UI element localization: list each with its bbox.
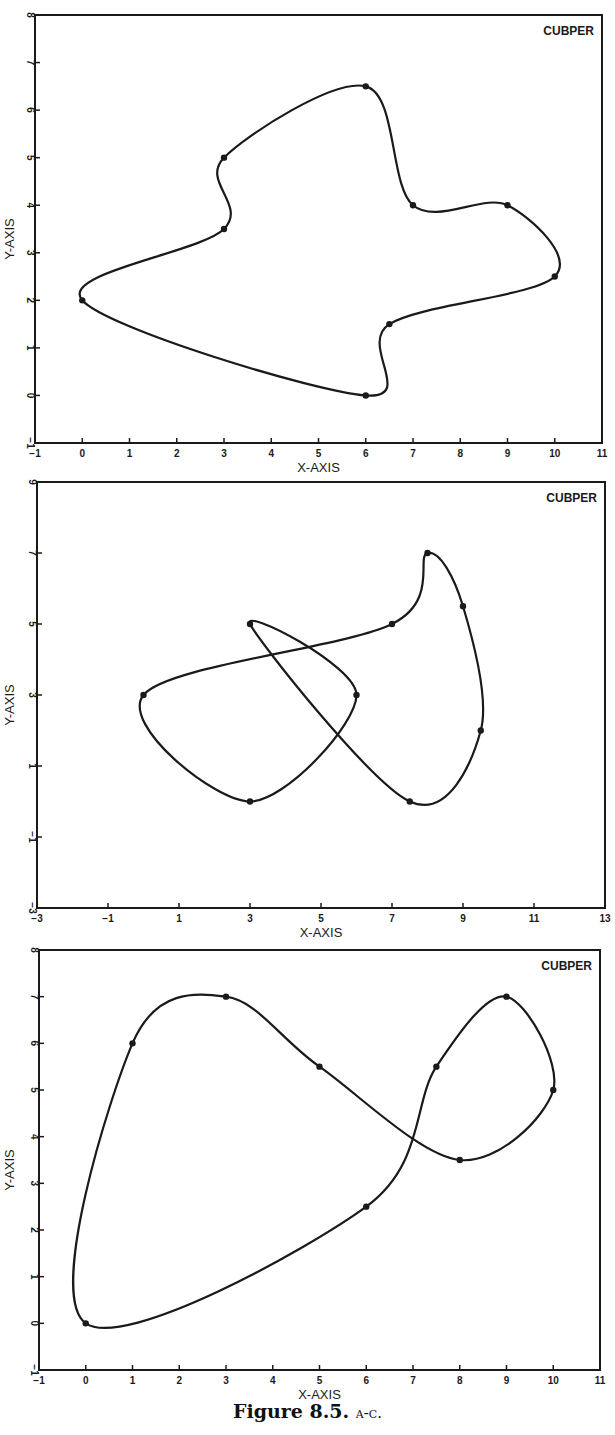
- y-tick-label: 5: [27, 621, 38, 627]
- chart-c: −101234567891011−1012345678X-AXISY-AXISC…: [2, 947, 606, 1402]
- y-axis-label: Y-AXIS: [2, 1149, 17, 1191]
- plot-frame: [37, 482, 605, 908]
- control-point: [478, 727, 484, 733]
- y-tick-label: −3: [27, 902, 38, 914]
- y-tick-label: 6: [29, 1041, 40, 1047]
- control-point: [433, 1063, 439, 1069]
- control-point: [221, 154, 227, 160]
- x-tick-label: 1: [127, 448, 133, 459]
- x-tick-label: 7: [410, 1375, 416, 1386]
- x-tick-label: 9: [505, 448, 511, 459]
- x-tick-label: 3: [221, 448, 227, 459]
- y-tick-label: 7: [25, 60, 36, 66]
- y-tick-label: 8: [29, 947, 40, 953]
- x-tick-label: 6: [363, 1375, 369, 1386]
- y-tick-label: 4: [25, 202, 36, 208]
- y-tick-label: 4: [29, 1134, 40, 1140]
- control-point: [247, 621, 253, 627]
- y-tick-label: 1: [25, 345, 36, 351]
- y-tick-label: 3: [27, 692, 38, 698]
- y-tick-label: 2: [25, 298, 36, 304]
- control-point: [363, 1203, 369, 1209]
- y-tick-label: 9: [27, 479, 38, 485]
- x-tick-label: 10: [549, 448, 561, 459]
- x-tick-label: −1: [102, 913, 114, 924]
- x-tick-label: 7: [389, 913, 395, 924]
- y-axis-label: Y-AXIS: [2, 218, 17, 260]
- x-tick-label: 5: [318, 913, 324, 924]
- control-point: [552, 273, 558, 279]
- control-point: [316, 1063, 322, 1069]
- x-tick-label: 9: [460, 913, 466, 924]
- figure-canvas: −101234567891011−1012345678X-AXISY-AXISC…: [0, 0, 615, 1435]
- caption-parts: a-c.: [356, 1404, 382, 1422]
- y-tick-label: 2: [29, 1227, 40, 1233]
- control-point: [389, 621, 395, 627]
- control-point: [223, 993, 229, 999]
- x-tick-label: 13: [599, 913, 611, 924]
- x-tick-label: 11: [597, 448, 608, 459]
- x-tick-label: 6: [363, 448, 369, 459]
- x-tick-label: 1: [130, 1375, 136, 1386]
- control-point: [353, 692, 359, 698]
- chart-b: −3−1135791113−3−113579X-AXISY-AXISCUBPER: [2, 479, 611, 940]
- x-tick-label: 4: [268, 448, 274, 459]
- x-axis-label: X-AXIS: [300, 925, 343, 940]
- control-point: [247, 798, 253, 804]
- plot-frame: [39, 950, 600, 1370]
- y-tick-label: 8: [25, 12, 36, 18]
- control-point: [363, 83, 369, 89]
- y-tick-label: 6: [25, 107, 36, 113]
- x-tick-label: 7: [410, 448, 416, 459]
- control-point: [221, 226, 227, 232]
- control-point: [550, 1087, 556, 1093]
- control-point: [386, 321, 392, 327]
- control-point: [129, 1040, 135, 1046]
- x-tick-label: 0: [79, 448, 85, 459]
- control-point: [503, 993, 509, 999]
- x-tick-label: 2: [176, 1375, 182, 1386]
- control-point: [457, 1157, 463, 1163]
- caption-figure-number: Figure 8.5.: [233, 1400, 349, 1422]
- x-tick-label: 4: [270, 1375, 276, 1386]
- x-tick-label: 1: [176, 913, 182, 924]
- chart-annotation: CUBPER: [546, 491, 597, 505]
- y-tick-label: 7: [29, 994, 40, 1000]
- x-tick-label: −1: [29, 448, 41, 459]
- plot-frame: [35, 15, 602, 443]
- y-tick-label: −1: [25, 437, 36, 449]
- spline-curve: [73, 995, 554, 1328]
- x-tick-label: 3: [247, 913, 253, 924]
- y-tick-label: −1: [29, 1364, 40, 1376]
- x-tick-label: −3: [31, 913, 43, 924]
- control-point: [140, 692, 146, 698]
- x-tick-label: 10: [548, 1375, 560, 1386]
- x-tick-label: 3: [223, 1375, 229, 1386]
- x-tick-label: 0: [83, 1375, 89, 1386]
- x-tick-label: −1: [33, 1375, 45, 1386]
- x-tick-label: 8: [457, 448, 463, 459]
- x-tick-label: 8: [457, 1375, 463, 1386]
- control-point: [424, 550, 430, 556]
- chart-annotation: CUBPER: [543, 24, 594, 38]
- x-tick-label: 9: [504, 1375, 510, 1386]
- control-point: [410, 202, 416, 208]
- y-tick-label: 5: [29, 1087, 40, 1093]
- figure-caption: Figure 8.5. a-c.: [0, 1400, 615, 1422]
- y-tick-label: 5: [25, 155, 36, 161]
- control-point: [460, 603, 466, 609]
- y-tick-label: 0: [25, 393, 36, 399]
- x-tick-label: 11: [529, 913, 540, 924]
- control-point: [83, 1320, 89, 1326]
- control-point: [79, 297, 85, 303]
- y-tick-label: 1: [29, 1274, 40, 1280]
- x-axis-label: X-AXIS: [297, 460, 340, 475]
- y-tick-label: 3: [29, 1181, 40, 1187]
- control-point: [407, 798, 413, 804]
- chart-a: −101234567891011−1012345678X-AXISY-AXISC…: [2, 12, 608, 475]
- y-axis-label: Y-AXIS: [2, 684, 17, 726]
- x-tick-label: 11: [595, 1375, 606, 1386]
- control-point: [504, 202, 510, 208]
- y-tick-label: −1: [27, 831, 38, 843]
- x-tick-label: 5: [317, 1375, 323, 1386]
